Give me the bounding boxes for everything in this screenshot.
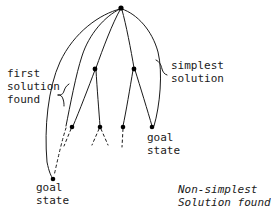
label-goal-state-bottom: goal state	[36, 181, 69, 207]
branch-mid-right-to-leaf-4	[135, 70, 152, 126]
unexplored-paths	[54, 128, 123, 176]
leaf-node-1	[70, 125, 75, 130]
diagram-canvas: first solution found simplest solution g…	[0, 0, 271, 221]
intermediate-node-right	[132, 67, 137, 72]
annotation-pointers	[58, 60, 167, 106]
leaf-node-3	[121, 125, 126, 130]
dashed-leaf-3	[122, 129, 123, 147]
tree-branches	[46, 9, 160, 179]
label-first-solution-found: first solution found	[7, 67, 60, 106]
pointer-simplest-solution	[156, 60, 167, 75]
goal-node-right	[150, 125, 155, 130]
dashed-leaf-1	[64, 129, 71, 146]
tree-nodes	[51, 5, 155, 181]
label-simplest-solution: simplest solution	[171, 59, 224, 85]
branch-mid-left-to-leaf-2	[96, 70, 100, 126]
branch-mid-right-to-leaf-3	[123, 70, 133, 126]
dashed-leaf-2-right	[101, 129, 108, 145]
label-non-simplest-solution-found: Non-simplest Solution found	[178, 183, 271, 209]
leaf-node-2	[98, 125, 103, 130]
dashed-deep-path	[54, 128, 66, 176]
root-node	[118, 5, 123, 10]
label-goal-state-right: goal state	[147, 131, 180, 157]
branch-root-to-mid-right	[122, 10, 134, 68]
branch-root-to-mid-left	[96, 10, 120, 68]
dashed-leaf-2-left	[92, 129, 99, 145]
intermediate-node-left	[93, 67, 98, 72]
branch-root-to-right-goal	[122, 9, 161, 126]
